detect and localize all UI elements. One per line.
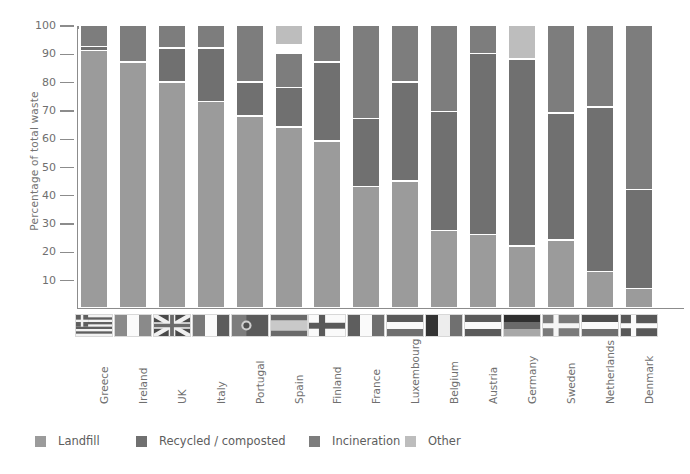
bar-segment xyxy=(81,26,107,46)
legend-label: Landfill xyxy=(58,434,100,448)
bar-segment xyxy=(548,241,574,307)
y-tick-label: 30 xyxy=(0,217,56,230)
country-label: Belgium xyxy=(448,361,460,404)
y-tick-label: 90 xyxy=(0,47,56,60)
bar-segment xyxy=(159,26,185,47)
flag-finland-icon xyxy=(308,314,346,337)
y-tick-label: 80 xyxy=(0,76,56,89)
bar-stack xyxy=(237,26,263,309)
bar-stack xyxy=(587,26,613,309)
country-label: Sweden xyxy=(565,363,577,405)
bar-segment xyxy=(470,26,496,53)
y-tick-mark xyxy=(60,82,74,83)
bar-segment xyxy=(198,49,224,101)
country-label: France xyxy=(370,369,382,404)
legend-swatch-icon xyxy=(35,436,46,447)
flag-sweden-icon xyxy=(542,314,580,337)
y-tick-mark xyxy=(60,195,74,196)
y-tick-mark xyxy=(60,223,74,224)
bar-segment xyxy=(159,49,185,81)
country-label: Finland xyxy=(331,366,343,404)
bar-stack xyxy=(470,26,496,309)
y-tick-mark xyxy=(60,54,74,55)
bar-segment xyxy=(587,26,613,106)
bar-stack xyxy=(431,26,457,309)
country-label: Germany xyxy=(526,356,538,404)
bar-segment xyxy=(626,190,652,287)
country-label: Austria xyxy=(487,367,499,404)
legend-label: Incineration xyxy=(332,434,400,448)
bar-segment xyxy=(120,63,146,308)
flag-france-icon xyxy=(347,314,385,337)
y-tick-mark xyxy=(60,25,74,26)
y-tick-label: 60 xyxy=(0,132,56,145)
flag-luxembourg-icon xyxy=(386,314,424,337)
flag-row xyxy=(0,314,690,338)
bar-segment xyxy=(81,47,107,50)
legend-item: Other xyxy=(405,431,461,451)
legend-swatch-icon xyxy=(136,436,147,447)
bar-segment xyxy=(353,119,379,185)
flag-germany-icon xyxy=(503,314,541,337)
bar-stack xyxy=(353,26,379,309)
bar-segment xyxy=(159,83,185,308)
bar-stack xyxy=(548,26,574,309)
bar-segment xyxy=(276,128,302,308)
country-label: UK xyxy=(176,389,188,404)
bar-segment xyxy=(237,117,263,308)
legend-swatch-icon xyxy=(309,436,320,447)
legend-label: Recycled / composted xyxy=(159,434,286,448)
y-tick-label: 50 xyxy=(0,161,56,174)
y-tick-label: 70 xyxy=(0,104,56,117)
chart-legend: LandfillRecycled / compostedIncineration… xyxy=(0,431,690,455)
bar-segment xyxy=(509,60,535,245)
bar-segment xyxy=(198,102,224,307)
bar-segment xyxy=(626,26,652,189)
bar-segment xyxy=(276,88,302,126)
flag-portugal-icon xyxy=(231,314,269,337)
flag-belgium-icon xyxy=(425,314,463,337)
y-tick-mark xyxy=(60,139,74,140)
bar-segment xyxy=(237,26,263,81)
country-label: Greece xyxy=(98,367,110,404)
bar-stack xyxy=(159,26,185,309)
bar-segment xyxy=(509,247,535,308)
country-label: Italy xyxy=(215,381,227,404)
country-label: Ireland xyxy=(137,368,149,404)
flag-greece-icon xyxy=(75,314,113,337)
bar-stack xyxy=(276,26,302,309)
bar-segment xyxy=(470,235,496,307)
legend-item: Landfill xyxy=(35,431,100,451)
bar-segment xyxy=(392,182,418,308)
flag-netherlands-icon xyxy=(581,314,619,337)
country-label: Luxembourg xyxy=(409,339,421,404)
bar-segment xyxy=(548,26,574,112)
bar-segment xyxy=(314,63,340,141)
bar-segment xyxy=(587,108,613,271)
country-label: Spain xyxy=(293,375,305,404)
flag-uk-icon xyxy=(153,314,191,337)
bar-stack xyxy=(81,26,107,309)
bar-segment xyxy=(587,272,613,307)
bar-segment xyxy=(276,26,302,44)
y-tick-mark xyxy=(60,110,74,111)
flag-denmark-icon xyxy=(620,314,658,337)
bar-segment xyxy=(276,54,302,86)
bar-segment xyxy=(198,26,224,47)
y-tick-mark xyxy=(60,252,74,253)
bar-segment xyxy=(237,83,263,115)
flag-italy-icon xyxy=(192,314,230,337)
legend-swatch-icon xyxy=(405,436,416,447)
y-tick-label: 10 xyxy=(0,274,56,287)
country-label: Netherlands xyxy=(604,340,616,404)
legend-item: Recycled / composted xyxy=(136,431,286,451)
bar-segment xyxy=(392,83,418,180)
legend-label: Other xyxy=(428,434,461,448)
flag-spain-icon xyxy=(270,314,308,337)
country-label: Denmark xyxy=(643,356,655,404)
stacked-bar-chart: Percentage of total waste 10203040506070… xyxy=(0,0,690,474)
legend-item: Incineration xyxy=(309,431,400,451)
country-label: Portugal xyxy=(254,361,266,405)
bar-segment xyxy=(626,289,652,307)
y-tick-mark xyxy=(60,280,74,281)
